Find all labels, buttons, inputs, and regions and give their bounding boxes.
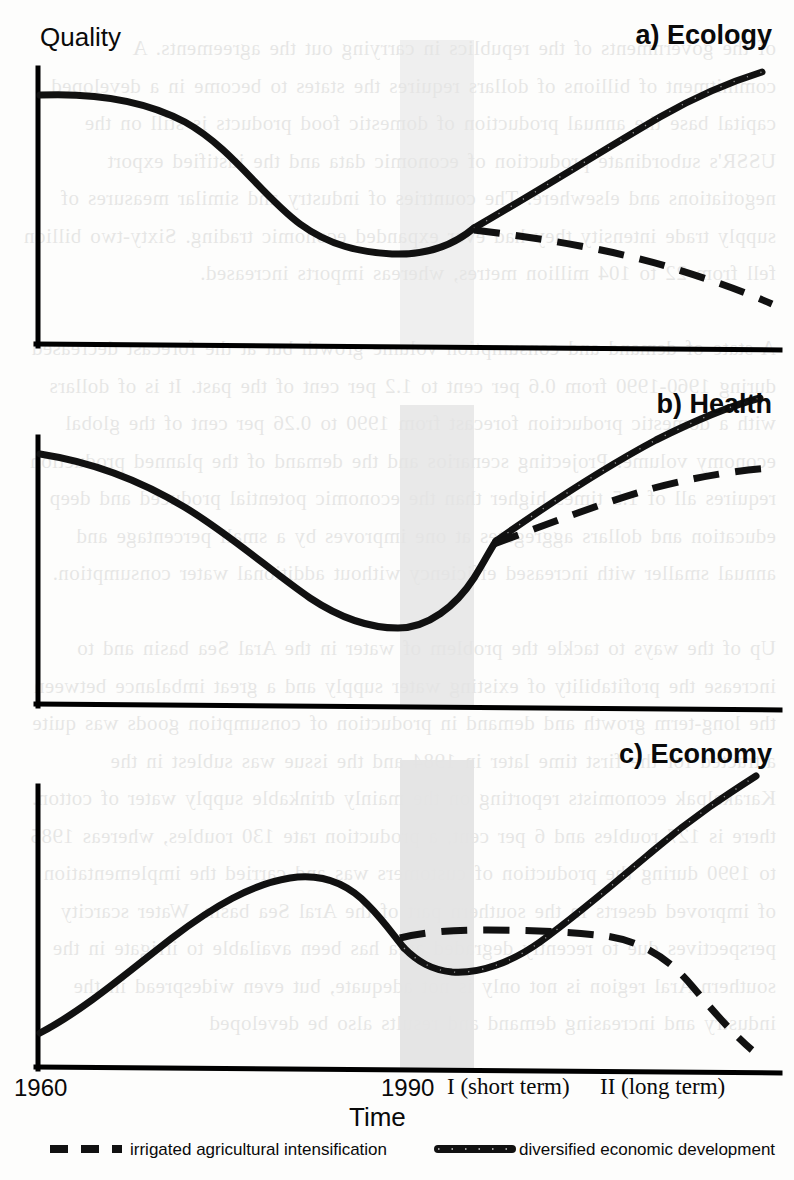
x-tick-1990: 1990 xyxy=(381,1074,434,1102)
x-axis-health xyxy=(36,704,780,710)
panel-title-health: b) Health xyxy=(656,389,772,420)
panel-title-economy: c) Economy xyxy=(619,739,772,770)
series-irrigated-health xyxy=(494,468,772,544)
x-axis-label: Time xyxy=(349,1102,406,1133)
x-tick-1960: 1960 xyxy=(14,1074,67,1102)
history-curve-economy xyxy=(40,877,404,1033)
x-axis-economy xyxy=(36,1067,780,1073)
transition-band-health xyxy=(400,405,474,705)
transition-band-ecology xyxy=(400,40,474,345)
panel-title-ecology: a) Ecology xyxy=(635,20,772,51)
three-panel-quality-time-figure: Quality a) Ecology b) Health c) Economy … xyxy=(0,0,794,1180)
series-irrigated-ecology xyxy=(474,230,772,304)
y-axis-label: Quality xyxy=(40,22,121,53)
chart-canvas xyxy=(0,0,794,1180)
transition-band-economy xyxy=(400,760,474,1068)
x-tick-phase-one: I (short term) xyxy=(447,1074,570,1100)
legend-label-diversified: diversified economic development xyxy=(519,1140,775,1160)
x-tick-phase-two: II (long term) xyxy=(600,1074,725,1100)
x-axis-ecology xyxy=(36,344,780,350)
series-diversified-ecology xyxy=(474,72,762,228)
legend-label-irrigated: irrigated agricultural intensification xyxy=(130,1140,387,1160)
